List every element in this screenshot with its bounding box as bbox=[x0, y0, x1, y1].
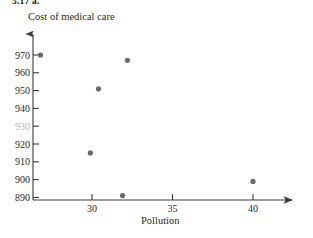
data-point bbox=[125, 58, 130, 63]
x-tick-label: 40 bbox=[248, 203, 258, 214]
data-point bbox=[250, 179, 255, 184]
data-point bbox=[96, 86, 101, 91]
y-tick-label: 920 bbox=[15, 139, 30, 150]
data-point-group bbox=[38, 52, 256, 198]
y-tick-label: 940 bbox=[15, 103, 30, 114]
y-tick-group: 890900910920930940950960970 bbox=[15, 50, 39, 203]
y-axis: 890900910920930940950960970 bbox=[15, 34, 39, 203]
y-tick-label: 910 bbox=[15, 156, 30, 167]
x-tick-label: 35 bbox=[168, 203, 178, 214]
y-tick-label: 960 bbox=[15, 67, 30, 78]
data-point bbox=[38, 52, 43, 57]
x-tick-label: 30 bbox=[87, 203, 97, 214]
data-point bbox=[120, 193, 125, 198]
y-tick-label: 930 bbox=[15, 121, 30, 132]
y-tick-label: 950 bbox=[15, 85, 30, 96]
x-axis: 303540 bbox=[33, 194, 292, 214]
x-tick-group: 303540 bbox=[87, 194, 258, 214]
data-point bbox=[88, 150, 93, 155]
plot-canvas: 890900910920930940950960970 303540 bbox=[0, 0, 313, 238]
y-tick-label: 890 bbox=[15, 192, 30, 203]
y-tick-label: 970 bbox=[15, 50, 30, 61]
y-tick-label: 900 bbox=[15, 174, 30, 185]
scatter-plot-figure: 5.17 a. Cost of medical care Pollution 8… bbox=[0, 0, 313, 238]
